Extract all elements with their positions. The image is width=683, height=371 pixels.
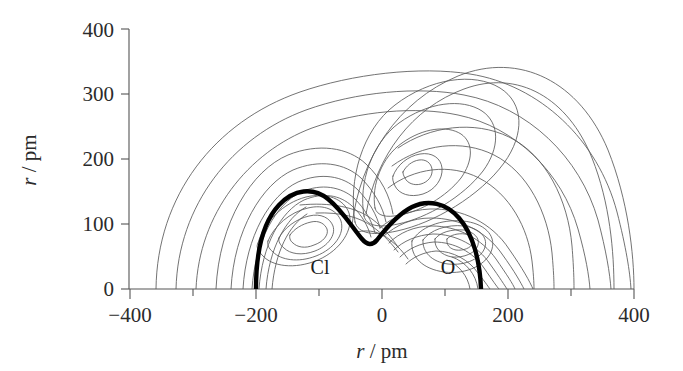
contour-tail-right-2	[452, 257, 478, 289]
y-tick-labels: 0 100 200 300 400	[83, 18, 115, 301]
y-tick-label-0: 0	[104, 277, 115, 301]
y-tick-label-400: 400	[83, 18, 115, 42]
x-tick-label-minus400: −400	[108, 303, 151, 327]
contour-cl-lobe-4	[290, 221, 328, 247]
y-axis-ticks	[121, 29, 129, 289]
contour-figure: 0 100 200 300 400 −400 −200 0 200 400 r …	[0, 0, 683, 371]
x-tick-label-400: 400	[618, 303, 650, 327]
svg-text:r / pm: r / pm	[17, 134, 41, 185]
y-axis-title-separator: /	[17, 161, 41, 177]
atom-label-cl: Cl	[311, 256, 330, 278]
x-axis-title: r / pm	[356, 339, 407, 363]
y-tick-label-300: 300	[83, 82, 115, 106]
y-tick-label-100: 100	[83, 212, 115, 236]
x-tick-labels: −400 −200 0 200 400	[108, 303, 649, 327]
contour-cl-lobe-2	[268, 207, 342, 260]
contour-plot-svg: 0 100 200 300 400 −400 −200 0 200 400 r …	[0, 0, 683, 371]
y-tick-label-200: 200	[83, 147, 115, 171]
contour-outer-2	[176, 91, 611, 289]
atom-label-o: O	[441, 256, 455, 278]
contour-cl-lobe-3	[279, 215, 334, 254]
svg-text:r / pm: r / pm	[356, 339, 407, 363]
x-axis-major-ticks	[130, 289, 634, 299]
y-axis-title-unit: pm	[17, 134, 41, 161]
x-tick-label-0: 0	[377, 303, 388, 327]
contour-outer-1	[156, 71, 631, 289]
contour-right-outer-3	[388, 169, 534, 289]
contour-lonepair-inner	[403, 160, 432, 185]
contour-sweep-1	[352, 67, 634, 289]
x-tick-label-minus200: −200	[234, 303, 277, 327]
x-axis-title-unit: pm	[381, 339, 408, 363]
y-axis-title: r / pm	[17, 134, 41, 185]
x-tick-label-200: 200	[492, 303, 524, 327]
contour-lines	[156, 67, 634, 289]
x-axis-title-separator: /	[365, 339, 381, 363]
